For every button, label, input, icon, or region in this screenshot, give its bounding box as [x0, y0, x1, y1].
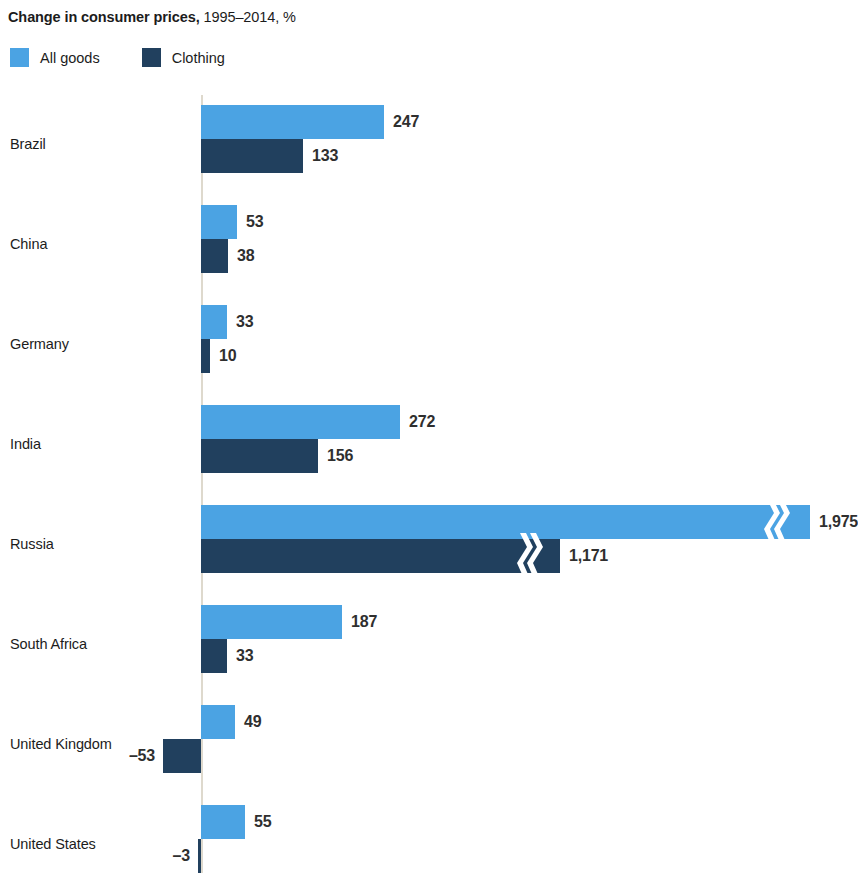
value-label-all-goods: 1,975	[819, 513, 858, 531]
category-label-brazil: Brazil	[10, 136, 46, 152]
bar-row: Russia1,9751,171	[0, 495, 858, 595]
bar-all-goods[interactable]	[201, 605, 342, 639]
bar-row: China5338	[0, 195, 858, 295]
bar-clothing[interactable]	[198, 839, 201, 873]
category-label-germany: Germany	[10, 336, 69, 352]
bar-clothing[interactable]	[163, 739, 201, 773]
value-label-clothing: 10	[219, 347, 236, 365]
bar-all-goods[interactable]	[201, 305, 227, 339]
value-label-clothing: –3	[0, 847, 190, 865]
chart-title-subtitle: 1995–2014, %	[200, 9, 296, 25]
value-label-clothing: –53	[0, 747, 155, 765]
category-label-india: India	[10, 436, 41, 452]
bar-clothing[interactable]	[201, 139, 303, 173]
legend-item-clothing[interactable]: Clothing	[142, 48, 225, 67]
chart-title-main: Change in consumer prices,	[8, 9, 200, 25]
bar-clothing[interactable]	[201, 239, 228, 273]
bar-clothing[interactable]	[201, 439, 318, 473]
value-label-clothing: 33	[236, 647, 253, 665]
value-label-all-goods: 187	[351, 613, 377, 631]
category-label-south-africa: South Africa	[10, 636, 87, 652]
category-label-china: China	[10, 236, 47, 252]
bar-row: United Kingdom49–53	[0, 695, 858, 795]
bar-row: United States55–3	[0, 795, 858, 873]
value-label-all-goods: 53	[246, 213, 263, 231]
value-label-all-goods: 247	[393, 113, 419, 131]
bar-clothing[interactable]	[201, 539, 560, 573]
value-label-all-goods: 49	[244, 713, 261, 731]
bar-all-goods[interactable]	[201, 405, 400, 439]
value-label-clothing: 133	[312, 147, 338, 165]
bar-row: Germany3310	[0, 295, 858, 395]
bar-row: South Africa18733	[0, 595, 858, 695]
legend-label-clothing: Clothing	[172, 50, 225, 66]
legend-label-all-goods: All goods	[40, 50, 100, 66]
legend-swatch-icon-clothing	[142, 48, 161, 67]
page-title: Change in consumer prices, 1995–2014, %	[8, 8, 296, 26]
chart-legend: All goods Clothing	[10, 48, 225, 67]
value-label-clothing: 38	[237, 247, 254, 265]
chart-plot-area: Brazil247133China5338Germany3310India272…	[0, 95, 858, 873]
bar-all-goods[interactable]	[201, 805, 245, 839]
bar-row: India272156	[0, 395, 858, 495]
value-label-clothing: 1,171	[569, 547, 608, 565]
bar-clothing[interactable]	[201, 639, 227, 673]
category-label-russia: Russia	[10, 536, 54, 552]
bar-all-goods[interactable]	[201, 505, 810, 539]
value-label-all-goods: 272	[409, 413, 435, 431]
value-label-all-goods: 33	[236, 313, 253, 331]
value-label-all-goods: 55	[254, 813, 271, 831]
bar-all-goods[interactable]	[201, 105, 384, 139]
bar-row: Brazil247133	[0, 95, 858, 195]
value-label-clothing: 156	[327, 447, 353, 465]
bar-all-goods[interactable]	[201, 205, 237, 239]
legend-item-all-goods[interactable]: All goods	[10, 48, 100, 67]
legend-swatch-icon-all-goods	[10, 48, 29, 67]
bar-clothing[interactable]	[201, 339, 210, 373]
bar-all-goods[interactable]	[201, 705, 235, 739]
